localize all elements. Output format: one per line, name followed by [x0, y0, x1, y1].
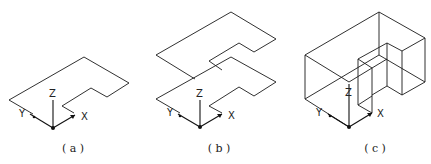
x-axis-label: X — [81, 111, 88, 122]
z-axis-label: Z — [345, 87, 352, 98]
origin-marker — [347, 125, 351, 129]
figure-canvas: Z X Y ( a ) Z X Y ( b ) — [0, 0, 431, 164]
caption-c: ( c ) — [364, 142, 386, 155]
profile-a — [9, 57, 129, 114]
wireframe-solid-c — [305, 12, 425, 127]
x-axis-label: X — [228, 110, 235, 121]
axis-triad-a: Z X Y — [18, 88, 88, 130]
panel-a: Z X Y ( a ) — [9, 57, 129, 155]
z-axis-label: Z — [196, 88, 203, 99]
panel-c: Z X Y ( c ) — [305, 12, 425, 155]
caption-a: ( a ) — [62, 142, 84, 155]
y-tick-dot — [33, 116, 36, 119]
y-tick-dot — [179, 115, 182, 118]
axis-triad-b: Z X Y — [166, 88, 235, 129]
y-axis-line — [178, 114, 200, 127]
y-axis-label: Y — [166, 107, 174, 118]
caption-b: ( b ) — [208, 142, 231, 155]
y-axis-label: Y — [315, 107, 323, 118]
y-tick-dot — [329, 115, 332, 118]
lower-profile-b — [156, 57, 276, 113]
upper-profile-b — [156, 12, 276, 79]
y-axis-label: Y — [18, 108, 26, 119]
origin-marker — [51, 126, 55, 130]
axis-triad-c: Z X Y — [315, 84, 384, 129]
x-axis-line — [349, 113, 372, 127]
origin-marker — [198, 125, 202, 129]
panel-b: Z X Y ( b ) — [156, 12, 276, 155]
x-axis-label: X — [377, 108, 384, 119]
z-axis-label: Z — [49, 88, 56, 99]
